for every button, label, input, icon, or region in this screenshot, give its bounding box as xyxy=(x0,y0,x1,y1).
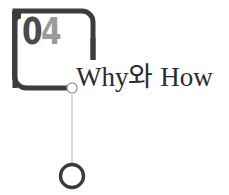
slide-canvas: 04 Why와 How xyxy=(0,0,229,195)
large-circle-node xyxy=(61,165,84,188)
slide-heading: Why와 How xyxy=(76,62,213,92)
section-number-second-digit: 4 xyxy=(41,10,60,53)
section-number: 04 xyxy=(22,13,60,50)
section-number-first-digit: 0 xyxy=(22,10,41,53)
